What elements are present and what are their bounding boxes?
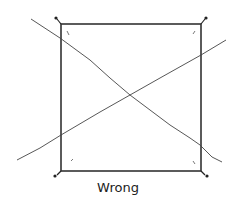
figure-caption: Wrong [0,180,236,195]
diagonal-line-1 [31,19,222,162]
diagonal-line-2 [17,40,226,160]
corner-tick [71,159,73,161]
corner-pin-icon [201,171,209,178]
corner-tick [67,31,69,35]
corner-tick [193,161,195,164]
corner-pin-icon [54,16,61,24]
corner-tick [193,31,195,34]
corner-pin-icon [53,171,61,178]
square-outline [61,24,201,171]
corner-pin-icon [201,16,208,24]
